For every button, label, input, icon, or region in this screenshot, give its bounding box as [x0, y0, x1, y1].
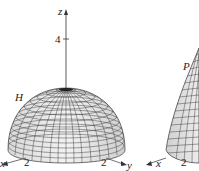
- y-tick-label: 2: [101, 157, 107, 168]
- z-axis: [63, 9, 69, 90]
- x-tick-label-left: 2: [24, 157, 30, 168]
- x-tick-label-right: 2: [181, 157, 187, 168]
- y-axis-label: y: [127, 160, 132, 171]
- hemisphere-surface-h: [8, 88, 125, 163]
- diagram-canvas: [0, 0, 199, 171]
- z-axis-label: z: [58, 6, 62, 17]
- z-tick-label: 4: [55, 34, 61, 45]
- surface-label-h: H: [15, 92, 23, 103]
- surface-label-p: P: [183, 61, 190, 72]
- x-axis-label-left: x: [0, 158, 5, 169]
- x-axis-label-right: x: [156, 158, 161, 169]
